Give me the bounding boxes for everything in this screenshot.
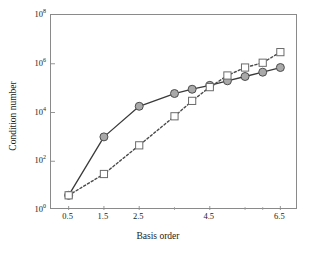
y-axis-title: Condition number [8,51,18,181]
x-axis-tick-labels: 0.51.52.54.56.5 [0,212,316,226]
data-point-circle [188,85,196,93]
data-point-square [224,72,231,79]
x-tick-label: 1.5 [98,212,109,221]
y-tick-exponent: 4 [43,105,46,111]
data-point-square [100,170,107,177]
y-tick-label: 102 [35,156,47,165]
series-dashed-squares [65,49,284,199]
y-tick-mantissa: 10 [35,106,44,116]
y-tick-mantissa: 10 [35,155,44,165]
data-point-circle [276,64,284,72]
y-tick-label: 106 [35,59,47,68]
x-tick-label: 6.5 [274,212,285,221]
y-tick-mantissa: 10 [35,58,44,68]
data-point-square [206,84,213,91]
data-point-circle [135,102,143,110]
tick-marks [51,64,280,210]
y-tick-label: 104 [35,107,47,116]
x-tick-label: 0.5 [62,212,73,221]
data-point-circle [259,68,267,76]
y-tick-exponent: 8 [43,8,46,14]
data-point-square [241,64,248,71]
plot-canvas [51,15,298,210]
x-tick-label: 4.5 [203,212,214,221]
data-point-square [136,142,143,149]
plot-area [50,14,297,209]
data-point-circle [171,90,179,98]
y-tick-exponent: 6 [43,57,46,63]
data-point-circle [100,133,108,141]
data-point-square [259,59,266,66]
data-point-square [189,97,196,104]
data-point-square [65,192,72,199]
y-tick-exponent: 0 [43,203,46,209]
y-tick-mantissa: 10 [35,9,44,19]
series-solid-circles [65,64,285,200]
data-point-circle [241,73,249,81]
y-tick-label: 108 [35,10,47,19]
x-axis-title: Basis order [0,231,316,241]
data-point-square [277,49,284,56]
y-tick-exponent: 2 [43,154,46,160]
figure: 100102104106108 0.51.52.54.56.5 Basis or… [0,0,316,255]
x-tick-label: 2.5 [133,212,144,221]
data-point-square [171,113,178,120]
